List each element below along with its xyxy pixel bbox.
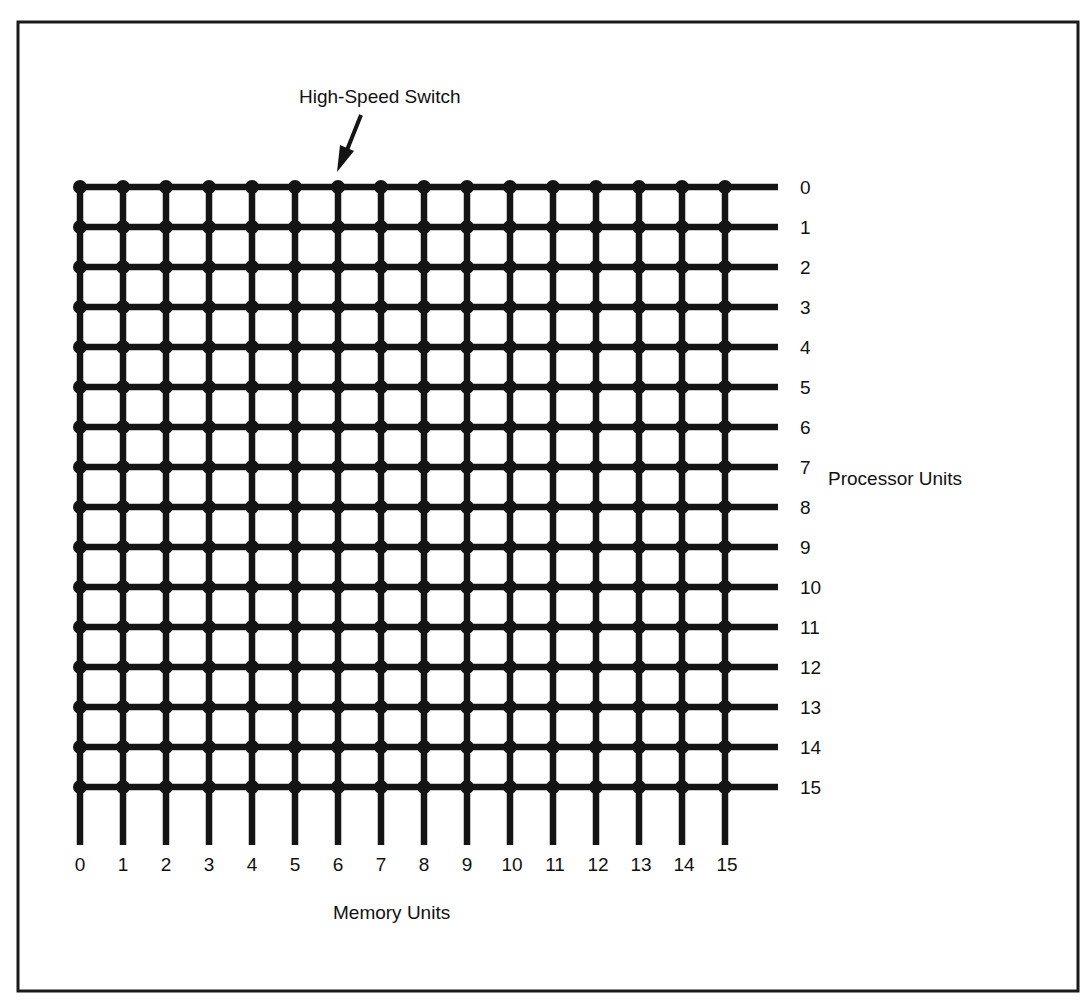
switch-node	[417, 420, 431, 434]
switch-node	[675, 780, 689, 794]
switch-node	[460, 700, 474, 714]
switch-node	[116, 460, 130, 474]
memory-unit-label: 2	[161, 854, 172, 875]
switch-node	[245, 220, 259, 234]
switch-node	[589, 660, 603, 674]
processor-unit-label: 12	[800, 657, 821, 678]
switch-node	[460, 300, 474, 314]
switch-node	[73, 700, 87, 714]
switch-node	[417, 620, 431, 634]
switch-node	[460, 780, 474, 794]
switch-node	[589, 620, 603, 634]
switch-node	[632, 500, 646, 514]
switch-node	[202, 500, 216, 514]
switch-node	[503, 460, 517, 474]
switch-node	[718, 740, 732, 754]
processor-unit-label: 8	[800, 497, 811, 518]
switch-node	[159, 340, 173, 354]
switch-node	[632, 460, 646, 474]
switch-node	[374, 340, 388, 354]
switch-node	[116, 780, 130, 794]
crossbar-switch-diagram: 0123456789101112131415 01234567891011121…	[0, 0, 1086, 1003]
switch-node	[288, 460, 302, 474]
switch-node	[288, 260, 302, 274]
switch-node	[202, 780, 216, 794]
switch-node	[116, 340, 130, 354]
switch-node	[460, 740, 474, 754]
switch-node	[288, 740, 302, 754]
switch-node	[675, 620, 689, 634]
processor-unit-label: 1	[800, 217, 811, 238]
switch-node	[116, 220, 130, 234]
switch-node	[718, 620, 732, 634]
switch-node	[417, 540, 431, 554]
switch-node	[503, 740, 517, 754]
memory-unit-label: 3	[204, 854, 215, 875]
switch-node	[73, 620, 87, 634]
switch-node	[546, 260, 560, 274]
switch-node	[546, 620, 560, 634]
switch-node	[73, 740, 87, 754]
switch-node	[202, 740, 216, 754]
switch-node	[245, 260, 259, 274]
switch-node	[632, 700, 646, 714]
memory-unit-label: 14	[673, 854, 695, 875]
switch-node	[632, 220, 646, 234]
switch-node	[73, 540, 87, 554]
switch-node	[374, 580, 388, 594]
switch-node	[546, 300, 560, 314]
switch-node	[288, 660, 302, 674]
switch-node	[632, 540, 646, 554]
switch-node	[589, 740, 603, 754]
switch-node	[718, 340, 732, 354]
switch-node	[159, 660, 173, 674]
switch-node	[331, 700, 345, 714]
switch-node	[245, 540, 259, 554]
switch-node	[589, 500, 603, 514]
switch-node	[632, 580, 646, 594]
switch-node	[589, 180, 603, 194]
switch-node	[589, 380, 603, 394]
switch-node	[718, 180, 732, 194]
processor-unit-label: 0	[800, 177, 811, 198]
switch-node	[589, 460, 603, 474]
switch-node	[718, 260, 732, 274]
switch-node	[331, 740, 345, 754]
switch-node	[73, 580, 87, 594]
switch-node	[503, 180, 517, 194]
memory-unit-label: 7	[376, 854, 387, 875]
memory-units-title: Memory Units	[333, 902, 450, 923]
switch-node	[374, 660, 388, 674]
switch-node	[331, 780, 345, 794]
switch-node	[159, 220, 173, 234]
switch-node	[159, 620, 173, 634]
switch-node	[159, 460, 173, 474]
switch-node	[331, 460, 345, 474]
switch-node	[546, 380, 560, 394]
switch-node	[632, 340, 646, 354]
switch-node	[73, 660, 87, 674]
switch-node	[245, 380, 259, 394]
switch-node	[460, 340, 474, 354]
switch-node	[632, 620, 646, 634]
memory-unit-label: 5	[290, 854, 301, 875]
switch-node	[116, 300, 130, 314]
switch-node	[374, 380, 388, 394]
memory-unit-label: 6	[333, 854, 344, 875]
switch-node	[245, 740, 259, 754]
memory-unit-label: 15	[716, 854, 737, 875]
switch-node	[331, 340, 345, 354]
arrow-icon	[337, 115, 361, 172]
switch-node	[632, 300, 646, 314]
processor-unit-label: 5	[800, 377, 811, 398]
switch-node	[202, 620, 216, 634]
switch-node	[718, 700, 732, 714]
switch-node	[417, 700, 431, 714]
switch-node	[546, 660, 560, 674]
switch-node	[503, 380, 517, 394]
switch-node	[288, 220, 302, 234]
switch-node	[245, 300, 259, 314]
processor-unit-label: 3	[800, 297, 811, 318]
memory-unit-label: 8	[419, 854, 430, 875]
switch-node	[73, 260, 87, 274]
